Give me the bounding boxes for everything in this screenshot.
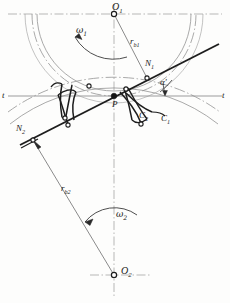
label-pressure-angle: α′ [160,78,167,87]
label-o2: O2 [121,266,132,279]
label-rb2: rb2 [61,184,71,195]
label-pitch-point: P [112,100,118,109]
label-tangent-right: t [222,91,225,100]
node-tooth2-tip-right [139,122,143,126]
diagram-canvas [0,0,230,303]
label-o1: O1 [112,2,123,15]
label-n1: N1 [145,59,154,70]
node-tooth2-root-left [66,123,70,127]
label-c1: C1 [161,114,170,125]
node-n2 [31,138,35,142]
label-omega1: ω1 [76,26,87,37]
label-omega2: ω2 [116,210,127,221]
node-n1 [145,76,149,80]
gear-meshing-diagram: O1 O2 ω1 ω2 rb1 rb2 N1 N2 P C1 C2 α′ t t [0,0,230,303]
node-tooth1-root-left [63,116,67,120]
radius-line-rb2 [33,140,114,275]
node-tooth1-tip [87,84,91,88]
label-tangent-left: t [2,91,5,100]
omega1-arc [75,37,127,59]
node-o2 [111,272,116,277]
label-n2: N2 [16,124,25,135]
label-rb1: rb1 [130,37,140,48]
label-c2: C2 [139,111,148,122]
node-pitch-point [111,93,117,99]
node-contact-upper [124,87,128,91]
